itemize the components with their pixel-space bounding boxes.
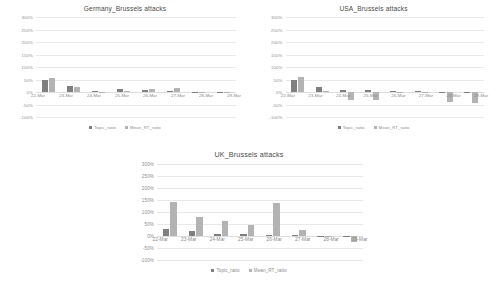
y-tick-label: 300% xyxy=(271,15,282,20)
legend-item-mean: Mean_RT_ratio xyxy=(374,125,410,130)
x-tick-label: 29-Mar xyxy=(220,93,248,98)
plot-area-usa: 300%250%200%150%100%50%0%-50%-100% xyxy=(264,17,484,117)
x-tick-label: 25-Mar xyxy=(232,237,261,242)
x-tick-label: 22-Mar xyxy=(24,93,52,98)
y-tick-label: 50% xyxy=(274,77,283,82)
y-tick-label: -50% xyxy=(23,102,33,107)
bar-topic xyxy=(240,234,247,236)
y-tick-label: -50% xyxy=(143,246,154,251)
legend-label-mean: Mean_RT_ratio xyxy=(130,125,161,130)
x-tick-label: 28-Mar xyxy=(440,93,468,98)
y-tick-label: 50% xyxy=(145,222,155,227)
y-tick-label: 150% xyxy=(22,52,33,57)
bar-group xyxy=(335,17,360,117)
y-tick-label: 150% xyxy=(271,52,282,57)
y-axis-usa: 300%250%200%150%100%50%0%-50%-100% xyxy=(264,17,285,117)
y-tick-label: 200% xyxy=(271,40,282,45)
x-axis-uk: 22-Mar23-Mar24-Mar25-Mar26-Mar27-Mar28-M… xyxy=(146,237,374,242)
bar-mean xyxy=(299,230,306,236)
legend-swatch-topic-icon xyxy=(89,126,92,129)
legend-swatch-topic-icon xyxy=(211,269,214,272)
legend-uk: Topic_ratio Mean_RT_ratio xyxy=(124,268,374,273)
bar-topic xyxy=(214,234,221,236)
gridline xyxy=(157,260,363,261)
x-tick-label: 28-Mar xyxy=(317,237,346,242)
x-tick-label: 24-Mar xyxy=(80,93,108,98)
bar-topic xyxy=(92,91,98,93)
legend-usa: Topic_ratio Mean_RT_ratio xyxy=(252,125,495,130)
legend-item-mean: Mean_RT_ratio xyxy=(125,125,161,130)
bar-group xyxy=(312,164,338,260)
bar-group xyxy=(234,164,260,260)
bar-topic xyxy=(142,90,148,92)
legend-item-topic: Topic_ratio xyxy=(338,125,365,130)
bar-groups-germany xyxy=(36,17,236,117)
bar-topic xyxy=(189,231,196,236)
y-tick-label: -100% xyxy=(140,258,154,263)
y-tick-label: -100% xyxy=(270,115,283,120)
bar-group xyxy=(211,17,236,117)
bar-mean xyxy=(170,202,177,236)
bar-topic xyxy=(67,86,73,92)
bar-mean xyxy=(49,78,55,93)
y-tick-label: 300% xyxy=(22,15,33,20)
x-tick-label: 24-Mar xyxy=(203,237,232,242)
bar-group xyxy=(209,164,235,260)
bar-group xyxy=(286,164,312,260)
bar-mean xyxy=(74,87,80,92)
bar-mean xyxy=(222,221,229,236)
bar-group xyxy=(260,164,286,260)
bar-group xyxy=(157,164,183,260)
y-tick-label: 50% xyxy=(24,77,33,82)
bar-mean xyxy=(298,77,304,93)
bar-group xyxy=(360,17,385,117)
x-tick-label: 25-Mar xyxy=(357,93,385,98)
bar-group xyxy=(36,17,61,117)
bar-mean xyxy=(124,91,130,92)
legend-label-topic: Topic_ratio xyxy=(216,268,239,273)
bar-mean xyxy=(273,203,280,236)
y-tick-label: -50% xyxy=(272,102,282,107)
y-tick-label: 250% xyxy=(271,27,282,32)
x-tick-label: 28-Mar xyxy=(192,93,220,98)
bar-group xyxy=(136,17,161,117)
bar-mean xyxy=(196,217,203,236)
bar-topic xyxy=(316,87,322,92)
x-tick-label: 23-Mar xyxy=(302,93,330,98)
bar-topic xyxy=(415,91,421,92)
bar-topic xyxy=(266,235,273,236)
y-tick-label: 200% xyxy=(22,40,33,45)
legend-swatch-mean-icon xyxy=(249,269,252,272)
bar-group xyxy=(434,17,459,117)
legend-label-topic: Topic_ratio xyxy=(94,125,116,130)
bar-group xyxy=(183,164,209,260)
chart-title-germany: Germany_Brussels attacks xyxy=(2,4,248,14)
bar-topic xyxy=(340,90,346,92)
legend-swatch-mean-icon xyxy=(125,126,128,129)
x-tick-label: 25-Mar xyxy=(108,93,136,98)
legend-item-mean: Mean_RT_ratio xyxy=(249,268,287,273)
legend-germany: Topic_ratio Mean_RT_ratio xyxy=(2,125,248,130)
x-tick-label: 29-Mar xyxy=(467,93,495,98)
x-tick-label: 26-Mar xyxy=(260,237,289,242)
bar-topic xyxy=(390,91,396,93)
y-tick-label: -100% xyxy=(20,115,33,120)
bar-group xyxy=(61,17,86,117)
bar-group xyxy=(385,17,410,117)
bar-mean xyxy=(174,88,180,92)
legend-label-topic: Topic_ratio xyxy=(343,125,365,130)
bar-group xyxy=(111,17,136,117)
bar-group xyxy=(286,17,311,117)
y-tick-label: 100% xyxy=(271,65,282,70)
legend-label-mean: Mean_RT_ratio xyxy=(379,125,410,130)
x-tick-label: 27-Mar xyxy=(289,237,318,242)
legend-item-topic: Topic_ratio xyxy=(211,268,239,273)
bar-topic xyxy=(42,80,48,92)
plot-area-germany: 300%250%200%150%100%50%0%-50%-100% xyxy=(14,17,236,117)
chart-title-usa: USA_Brussels attacks xyxy=(252,4,495,14)
bar-mean xyxy=(323,91,329,92)
chart-uk: UK_Brussels attacks 300%250%200%150%100%… xyxy=(124,150,374,283)
bar-topic xyxy=(291,80,297,93)
y-tick-label: 200% xyxy=(142,186,154,191)
gridline xyxy=(36,117,236,118)
